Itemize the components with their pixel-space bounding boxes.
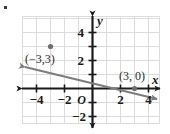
coordinate-plane-svg: −4 −2 2 4 4 2 −2 O (−3,3) (3, 0) x y xyxy=(0,0,170,134)
y-axis-label: y xyxy=(95,13,103,28)
coordinate-plane-figure: −4 −2 2 4 4 2 −2 O (−3,3) (3, 0) x y xyxy=(0,0,170,134)
point-marker-3-0 xyxy=(132,86,137,91)
y-tick-label-neg2: −2 xyxy=(72,109,86,124)
y-tick-label-2: 2 xyxy=(78,53,85,68)
point-marker-neg3-3 xyxy=(48,44,53,49)
point-label-3-0: (3, 0) xyxy=(119,69,145,83)
x-tick-label-2: 2 xyxy=(117,92,124,107)
point-label-neg3-3: (−3,3) xyxy=(25,52,55,66)
origin-label: O xyxy=(77,93,86,107)
y-tick-label-4: 4 xyxy=(78,25,85,40)
x-tick-label-neg2: −2 xyxy=(58,92,72,107)
x-tick-label-4: 4 xyxy=(145,92,152,107)
x-axis-label: x xyxy=(151,72,159,87)
x-tick-label-neg4: −4 xyxy=(30,92,44,107)
